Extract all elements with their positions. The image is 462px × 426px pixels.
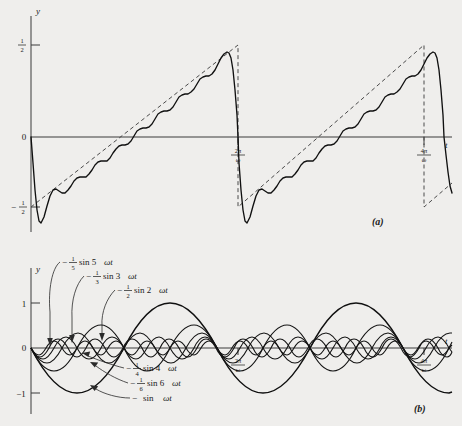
svg-text:−: − bbox=[86, 271, 91, 281]
svg-text:−: − bbox=[62, 257, 67, 267]
svg-text:ωt: ωt bbox=[159, 285, 168, 295]
svg-text:sin: sin bbox=[143, 393, 154, 403]
panel-b-y-axis-label: y bbox=[35, 264, 40, 274]
svg-text:−: − bbox=[117, 285, 122, 295]
svg-text:−: − bbox=[132, 393, 137, 403]
svg-text:−: − bbox=[126, 363, 131, 373]
svg-text:ωt: ωt bbox=[168, 363, 177, 373]
panel-a-y-axis-label: y bbox=[35, 6, 40, 16]
svg-text:sin 3: sin 3 bbox=[103, 271, 121, 281]
svg-text:2: 2 bbox=[20, 46, 23, 53]
svg-text:5: 5 bbox=[71, 264, 74, 271]
panel-b-ytick-label-zero: 0 bbox=[22, 343, 27, 353]
svg-text:1: 1 bbox=[71, 255, 74, 262]
svg-text:sin 6: sin 6 bbox=[147, 378, 165, 388]
svg-text:2: 2 bbox=[126, 292, 129, 299]
svg-text:ωt: ωt bbox=[104, 257, 113, 267]
svg-text:ω: ω bbox=[422, 366, 427, 373]
panel-a-tag: (a) bbox=[372, 216, 384, 228]
svg-text:ωt: ωt bbox=[163, 393, 172, 403]
svg-text:ωt: ωt bbox=[172, 378, 181, 388]
svg-text:sin 2: sin 2 bbox=[134, 285, 151, 295]
panel-b-tag: (b) bbox=[414, 403, 426, 415]
panel-b-ytick-label-pos1: 1 bbox=[22, 299, 27, 309]
fourier-series-figure: y t 1 2 0 − 1 2 2π ω 4π ω bbox=[0, 0, 462, 426]
svg-text:1: 1 bbox=[21, 199, 24, 206]
svg-text:1: 1 bbox=[135, 361, 138, 368]
panel-a-ytick-label-zero: 0 bbox=[22, 132, 27, 142]
panel-b-ytick-label-neg1: −1 bbox=[16, 389, 26, 399]
svg-text:ωt: ωt bbox=[128, 271, 137, 281]
svg-text:1: 1 bbox=[20, 37, 23, 44]
svg-text:1: 1 bbox=[139, 376, 142, 383]
svg-text:3: 3 bbox=[95, 278, 98, 285]
svg-text:sin 4: sin 4 bbox=[143, 363, 161, 373]
svg-text:−: − bbox=[11, 202, 16, 212]
svg-text:2: 2 bbox=[21, 208, 24, 215]
svg-text:1: 1 bbox=[126, 283, 129, 290]
svg-text:ω: ω bbox=[236, 366, 241, 373]
svg-text:1: 1 bbox=[95, 269, 98, 276]
svg-text:sin 5: sin 5 bbox=[79, 257, 97, 267]
svg-text:−: − bbox=[130, 378, 135, 388]
figure-background bbox=[0, 0, 462, 426]
